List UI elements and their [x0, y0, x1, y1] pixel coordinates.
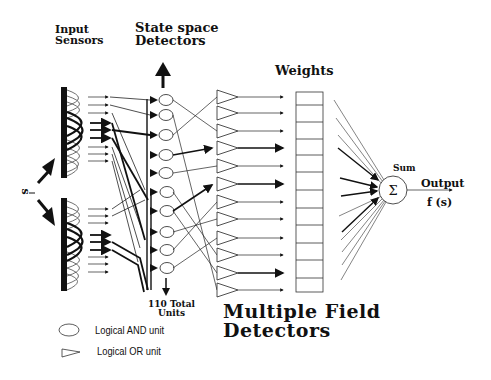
sensor-outputs-top-bold — [90, 123, 110, 138]
sensor-outputs-top — [88, 97, 108, 161]
state-space-label: State spaceDetectors — [135, 21, 219, 47]
or-units — [217, 90, 238, 297]
arrow-up-icon — [155, 62, 171, 88]
legend-triangle-icon — [62, 349, 80, 357]
sensor-outputs-bottom — [88, 209, 108, 272]
sum-node: Σ — [379, 176, 407, 204]
output-label: Output — [421, 178, 464, 189]
sensor-array-bottom — [61, 198, 67, 291]
legend-oval-icon — [59, 324, 79, 336]
output-function-label: f (s) — [427, 197, 452, 208]
legend-or-label: Logical OR unit — [97, 345, 161, 357]
s-label: s — [20, 188, 31, 194]
sum-label: Sum — [393, 164, 416, 173]
receptive-fields-top-bold — [67, 112, 83, 150]
arrow-down-icon — [162, 278, 170, 296]
weights-label: Weights — [275, 64, 334, 77]
total-units-label: 110 TotalUnits — [148, 300, 195, 318]
s-arrow-down-icon — [38, 200, 55, 226]
multiple-field-label: Multiple FieldDetectors — [223, 302, 381, 340]
and-units — [159, 95, 174, 274]
sigma-icon: Σ — [388, 183, 397, 198]
input-sensors-label: InputSensors — [55, 24, 103, 46]
neural-network-diagram: Σ InputSensors State spaceDetectors Weig… — [0, 0, 491, 380]
sensor-array-top — [61, 87, 67, 178]
weights-column — [296, 92, 323, 292]
legend-and-label: Logical AND unit — [95, 324, 164, 336]
s-arrow-up-icon — [38, 158, 55, 183]
sensor-outputs-bottom-bold — [90, 235, 110, 250]
